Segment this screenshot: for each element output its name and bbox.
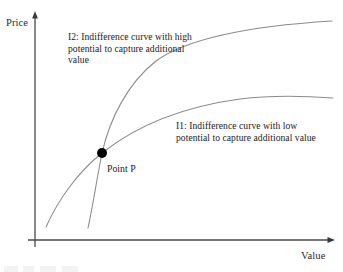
indifference-curve-figure: Price Value I2: Indifference curve with … — [0, 0, 343, 272]
curve-i1 — [46, 96, 333, 227]
curve-i2-annotation: I2: Indifference curve with high potenti… — [68, 31, 203, 66]
point-p-label: Point P — [107, 163, 136, 174]
x-axis-arrowhead-icon — [328, 237, 336, 243]
point-p-marker — [97, 148, 107, 158]
y-axis-label: Price — [6, 17, 28, 28]
x-axis-label: Value — [301, 250, 325, 261]
y-axis-arrowhead-icon — [32, 11, 38, 19]
page-edge-artifact — [4, 266, 184, 272]
curve-i1-annotation: I1: Indifference curve with low potentia… — [176, 120, 316, 143]
